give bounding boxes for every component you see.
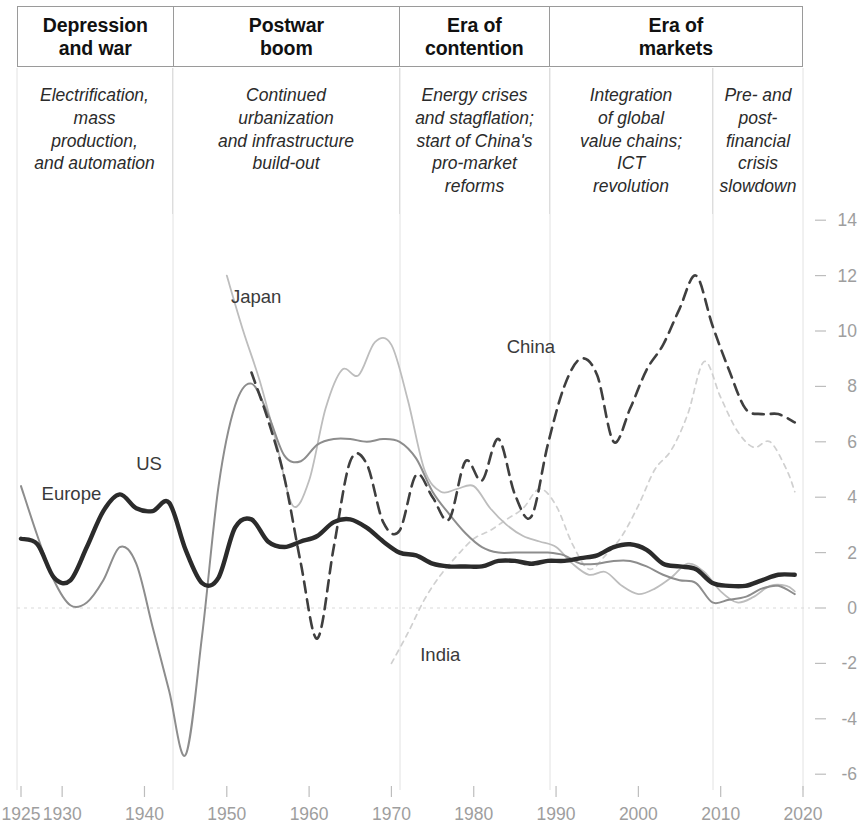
x-tick-label-2000: 2000 [619, 804, 658, 824]
chart-root: Depressionand war Postwarboom Era ofcont… [0, 0, 862, 825]
series-line-us [21, 494, 795, 586]
series-label-india: India [420, 644, 461, 665]
x-tick-label-1960: 1960 [290, 804, 329, 824]
y-tick-label-4: 4 [847, 487, 857, 507]
y-tick-label-10: 10 [838, 321, 858, 341]
x-tick-label-1980: 1980 [454, 804, 493, 824]
y-tick-label-2: 2 [847, 543, 857, 563]
y-tick-label-12: 12 [838, 266, 857, 286]
y-tick-label-6: 6 [847, 432, 857, 452]
y-tick-label-14: 14 [838, 210, 858, 230]
x-tick-label-1925: 1925 [2, 804, 41, 824]
series-layer [21, 275, 795, 756]
series-label-china: China [507, 336, 556, 357]
y-tick-label-8: 8 [847, 376, 857, 396]
x-tick-label-1940: 1940 [125, 804, 164, 824]
x-tick-label-2010: 2010 [701, 804, 740, 824]
y-tick-label--4: -4 [841, 709, 857, 729]
series-label-us: US [136, 453, 162, 474]
x-tick-label-1990: 1990 [537, 804, 576, 824]
y-axis-ticks: -6-4-202468101214 [815, 210, 857, 784]
x-axis-ticks: 1925193019401950196019701980199020002010… [2, 786, 823, 824]
y-tick-label--2: -2 [841, 653, 857, 673]
y-tick-label-0: 0 [847, 598, 857, 618]
line-chart: -6-4-202468101214 1925193019401950196019… [0, 0, 862, 825]
x-tick-label-1950: 1950 [207, 804, 246, 824]
era-divider-lines [17, 68, 803, 790]
series-label-japan: Japan [231, 286, 281, 307]
x-tick-label-1970: 1970 [372, 804, 411, 824]
x-tick-label-1930: 1930 [43, 804, 82, 824]
y-tick-label--6: -6 [841, 764, 857, 784]
series-label-europe: Europe [42, 483, 102, 504]
x-tick-label-2020: 2020 [784, 804, 823, 824]
